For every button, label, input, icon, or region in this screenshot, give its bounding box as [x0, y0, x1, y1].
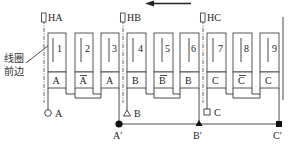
coil-front-label-line1: 线圈 — [4, 52, 24, 64]
coil-number: 7 — [218, 43, 223, 54]
terminal-label-a-prime: A′ — [113, 130, 122, 141]
terminal-label-b-prime: B′ — [193, 130, 202, 141]
open-square-icon — [204, 109, 210, 115]
coil-number: 2 — [85, 43, 90, 54]
coil-number: 1 — [57, 43, 62, 54]
coil-number: 5 — [165, 43, 170, 54]
coil-phase: B — [185, 75, 192, 86]
terminal-label-b: B — [134, 108, 141, 119]
coil-phase: A — [106, 75, 114, 86]
pole-label-ha: HA — [48, 12, 63, 23]
coil-1: 1 A — [48, 33, 66, 88]
coil-phase: C — [212, 75, 219, 86]
coil-phase: B — [159, 75, 166, 86]
coil-number: 4 — [138, 43, 143, 54]
coil-number: 8 — [244, 43, 249, 54]
pole-label-hb: HB — [127, 12, 141, 23]
terminal-b-prime: B′ — [193, 120, 203, 141]
open-circle-icon — [45, 110, 52, 117]
terminal-label-c-prime: C′ — [273, 130, 282, 141]
pole-label-hc: HC — [207, 12, 221, 23]
coil-8: 8 C — [233, 33, 252, 88]
coil-7: 7 C — [207, 33, 226, 88]
coil-number: 6 — [191, 43, 196, 54]
terminal-c: C — [204, 107, 221, 118]
coil-number: 3 — [112, 43, 117, 54]
filled-square-icon — [276, 121, 282, 127]
open-triangle-icon — [124, 110, 131, 116]
coil-2: 2 A — [75, 33, 93, 88]
coil-6: 6 B — [180, 33, 199, 88]
coil-phase: C — [265, 75, 272, 86]
terminal-b: B — [124, 108, 142, 119]
coil-front-label-line2: 前边 — [4, 65, 24, 77]
coil-3: 3 A — [101, 33, 119, 88]
direction-arrow-icon — [145, 1, 191, 7]
coil-phase: B — [132, 75, 139, 86]
coil-phase: C — [238, 75, 245, 86]
terminal-a: A — [45, 108, 63, 119]
coil-5: 5 B — [154, 33, 173, 88]
filled-triangle-icon — [196, 120, 203, 126]
terminal-label-c: C — [214, 107, 221, 118]
terminal-a-prime: A′ — [113, 120, 123, 141]
coil-phase: A — [80, 75, 88, 86]
coil-phase: A — [53, 75, 61, 86]
filled-circle-icon — [115, 120, 122, 127]
terminal-label-a: A — [55, 108, 63, 119]
winding-diagram: HA HB HC 线圈 前边 1 A 2 A 3 A — [0, 0, 295, 151]
coil-front-label: 线圈 前边 — [4, 45, 49, 77]
coil-number: 9 — [272, 43, 277, 54]
coil-4: 4 B — [127, 33, 146, 88]
coil-9: 9 C — [260, 33, 279, 88]
